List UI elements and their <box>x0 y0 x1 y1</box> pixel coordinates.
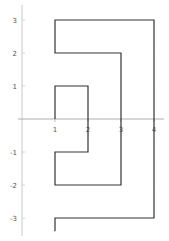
y-tick-label: 3 <box>13 17 17 25</box>
tick-labels: 1234321-1-2-3 <box>10 17 157 223</box>
y-tick-label: 2 <box>13 50 17 58</box>
y-tick-label: -1 <box>10 149 17 157</box>
x-tick-label: 1 <box>53 126 57 134</box>
plot-area: 1234321-1-2-3 <box>0 0 169 241</box>
y-tick-label: -3 <box>10 215 17 223</box>
y-tick-label: -2 <box>10 182 17 190</box>
data-line <box>55 20 154 231</box>
y-tick-label: 1 <box>13 83 17 91</box>
chart-svg: 1234321-1-2-3 <box>0 0 169 241</box>
